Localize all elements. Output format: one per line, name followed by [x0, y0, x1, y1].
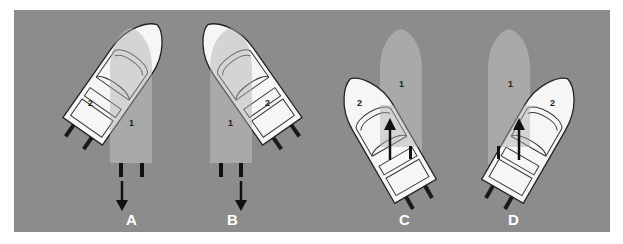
scenario-b	[188, 11, 310, 211]
boat-1-number-b: 1	[228, 118, 233, 128]
scenario-c	[330, 29, 444, 215]
boat-2-number-b: 2	[265, 98, 270, 108]
scenario-label-c: C	[399, 211, 410, 228]
boat-1-number-a: 1	[129, 118, 134, 128]
boat-2-number-c: 2	[357, 98, 362, 108]
scenario-d	[475, 29, 589, 215]
arrow-down-b	[235, 181, 247, 211]
scenario-label-d: D	[508, 211, 519, 228]
scenario-a	[55, 11, 177, 211]
boat-1-number-d: 1	[508, 79, 513, 89]
scenario-label-a: A	[126, 211, 137, 228]
boat-diagram: 1 2 1 2 1 2 1 2 A B C D	[0, 0, 623, 244]
boat-2-number-d: 2	[550, 98, 555, 108]
boat-2-number-a: 2	[88, 98, 93, 108]
boat-1-number-c: 1	[399, 79, 404, 89]
arrow-down-a	[116, 181, 128, 211]
scenario-label-b: B	[227, 211, 238, 228]
